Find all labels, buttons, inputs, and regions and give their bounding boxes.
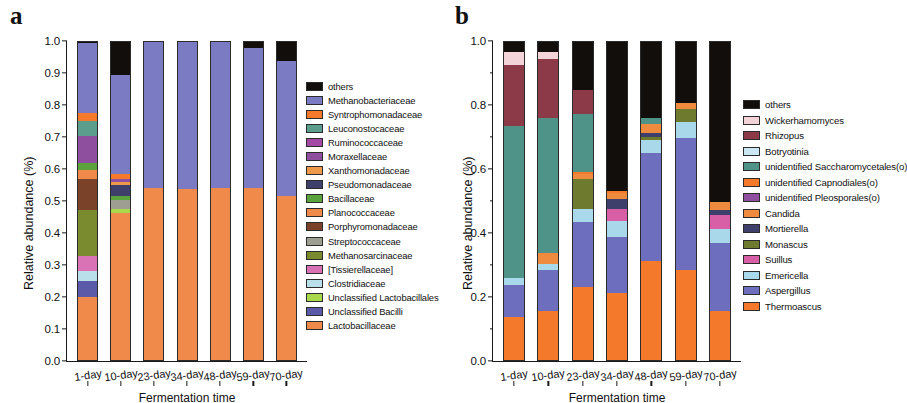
legend-item-aspergillus[interactable]: Aspergillus	[743, 283, 907, 299]
legend-label: Monascus	[765, 239, 808, 250]
legend-label: Wickerhamomyces	[765, 115, 844, 126]
panel-a-label: a	[10, 2, 23, 30]
legend-item-suillus[interactable]: Suillus	[743, 252, 907, 268]
legend-item-monascus[interactable]: Monascus	[743, 237, 907, 253]
legend-item-pseudomonadaceae[interactable]: Pseudomonadaceae	[306, 178, 438, 192]
segment-mortierella	[607, 199, 627, 209]
y-tick-label: 0.2	[471, 291, 493, 303]
legend-item-unclassified-lactobacillales[interactable]: Unclassified Lactobacillales	[306, 290, 438, 304]
legend-item-xanthomonadaceae[interactable]: Xanthomonadaceae	[306, 164, 438, 178]
x-tick-label-48-day: 48-day	[203, 367, 238, 384]
bar-1-day[interactable]	[503, 41, 525, 361]
legend-item-porphyromonadaceae[interactable]: Porphyromonadaceae	[306, 220, 438, 234]
legend-item--tissierellaceae-[interactable]: [Tissierellaceae]	[306, 262, 438, 276]
legend-item-candida[interactable]: Candida	[743, 206, 907, 222]
segment-lactobacillaceae	[277, 196, 296, 360]
legend-item-moraxellaceae[interactable]: Moraxellaceae	[306, 149, 438, 163]
bar-70-day[interactable]	[709, 41, 731, 361]
x-tick-label-23-day: 23-day	[565, 367, 600, 384]
panel-b-legend: othersWickerhamomycesRhizopusBotryotinia…	[743, 97, 907, 314]
segment-candida	[641, 124, 661, 133]
x-tick-mark	[186, 381, 187, 386]
legend-label: Streptococcaceae	[328, 236, 401, 247]
segment-others	[277, 41, 296, 61]
bar-59-day[interactable]	[243, 41, 264, 361]
legend-item-clostridiaceae[interactable]: Clostridiaceae	[306, 276, 438, 290]
legend-label: Moraxellaceae	[328, 151, 387, 162]
bar-48-day[interactable]	[210, 41, 231, 361]
x-tick-label-70-day: 70-day	[269, 367, 304, 384]
segment-emericella	[710, 229, 730, 243]
legend-label: Bacillaceae	[328, 193, 374, 204]
legend-item-rhizopus[interactable]: Rhizopus	[743, 128, 907, 144]
legend-item-unidentified-pleosporales-o-[interactable]: unidentified Pleosporales(o)	[743, 190, 907, 206]
segment-candida	[676, 103, 696, 108]
panel-a-x-ticks: 1-day10-day23-day34-day48-day59-day70-da…	[67, 361, 307, 381]
legend-label: unidentified Pleosporales(o)	[765, 192, 880, 203]
bar-10-day[interactable]	[537, 41, 559, 361]
legend-item-planococcaceae[interactable]: Planococcaceae	[306, 206, 438, 220]
x-tick-label-59-day: 59-day	[668, 367, 703, 384]
legend-item-emericella[interactable]: Emericella	[743, 268, 907, 284]
legend-item-thermoascus[interactable]: Thermoascus	[743, 299, 907, 315]
segment-others	[538, 41, 558, 52]
y-tick-label: 0.8	[471, 99, 493, 111]
x-tick-mark	[286, 381, 287, 386]
bar-70-day[interactable]	[276, 41, 297, 361]
legend-item-botryotinia[interactable]: Botryotinia	[743, 144, 907, 160]
legend-swatch-icon	[743, 116, 760, 125]
segment-lactobacillaceae	[111, 213, 130, 360]
segment-others	[504, 41, 524, 52]
legend-item-leuconostocaceae[interactable]: Leuconostocaceae	[306, 121, 438, 135]
legend-item-streptococcaceae[interactable]: Streptococcaceae	[306, 234, 438, 248]
y-tick-mark-minor	[490, 328, 493, 329]
bar-23-day[interactable]	[143, 41, 164, 361]
segment-aspergillus	[641, 153, 661, 261]
bar-23-day[interactable]	[572, 41, 594, 361]
legend-label: Rhizopus	[765, 130, 804, 141]
legend-item-unidentified-capnodiales-o-[interactable]: unidentified Capnodiales(o)	[743, 175, 907, 191]
segment-aspergillus	[573, 222, 593, 287]
legend-item-wickerhamomyces[interactable]: Wickerhamomyces	[743, 113, 907, 129]
bar-59-day[interactable]	[675, 41, 697, 361]
legend-item-methanosarcinaceae[interactable]: Methanosarcinaceae	[306, 248, 438, 262]
legend-item-others[interactable]: others	[306, 79, 438, 93]
bar-34-day[interactable]	[177, 41, 198, 361]
segment-others	[78, 41, 97, 43]
legend-item-ruminococcaceae[interactable]: Ruminococcaceae	[306, 135, 438, 149]
segment-candida	[573, 174, 593, 179]
x-tick-mark	[616, 381, 617, 386]
segment-thermoascus	[710, 311, 730, 360]
x-tick-label-48-day: 48-day	[634, 367, 669, 384]
legend-item-mortierella[interactable]: Mortierella	[743, 221, 907, 237]
segment-mortierella	[710, 210, 730, 216]
segment-emericella	[504, 278, 524, 285]
segment-others	[573, 41, 593, 90]
segment-pseudomonadaceae	[111, 185, 130, 196]
legend-item-unclassified-bacilli[interactable]: Unclassified Bacilli	[306, 305, 438, 319]
legend-item-lactobacillaceae[interactable]: Lactobacillaceae	[306, 319, 438, 333]
legend-item-unidentified-saccharomycetales-o-[interactable]: unidentified Saccharomycetales(o)	[743, 159, 907, 175]
legend-item-others[interactable]: others	[743, 97, 907, 113]
legend-item-bacillaceae[interactable]: Bacillaceae	[306, 192, 438, 206]
legend-item-syntrophomonadaceae[interactable]: Syntrophomonadaceae	[306, 107, 438, 121]
y-tick-label: 0.6	[45, 163, 67, 175]
panel-b-y-axis-title: Relative abundance (%)	[461, 157, 475, 290]
legend-label: Unclassified Bacilli	[328, 306, 403, 317]
legend-label: unidentified Saccharomycetales(o)	[765, 161, 907, 172]
bar-10-day[interactable]	[110, 41, 131, 361]
legend-swatch-icon	[306, 194, 323, 203]
legend-label: Suillus	[765, 254, 792, 265]
legend-label: Aspergillus	[765, 285, 810, 296]
bar-1-day[interactable]	[77, 41, 98, 361]
bar-48-day[interactable]	[640, 41, 662, 361]
segment-streptococcaceae	[111, 200, 130, 209]
bar-34-day[interactable]	[606, 41, 628, 361]
segment-wickerhamomyces	[538, 52, 558, 59]
y-tick-mark-minor	[490, 72, 493, 73]
legend-item-methanobacteriaceae[interactable]: Methanobacteriaceae	[306, 93, 438, 107]
segment-aspergillus	[538, 270, 558, 311]
x-tick-mark	[120, 381, 121, 386]
x-tick-label-34-day: 34-day	[600, 367, 635, 384]
segment-thermoascus	[538, 311, 558, 360]
